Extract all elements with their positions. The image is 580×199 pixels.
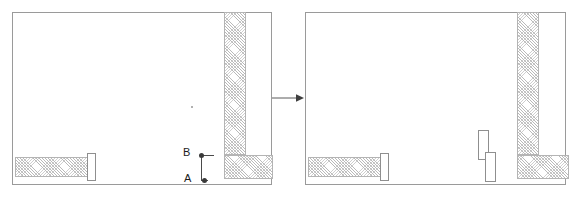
after-new-opening-lower bbox=[485, 152, 496, 182]
before-tiny-reference-dot bbox=[191, 106, 193, 108]
point-label-a: A bbox=[184, 173, 191, 184]
after-horizontal-wall-left bbox=[308, 157, 381, 177]
before-horizontal-wall-left bbox=[15, 157, 88, 177]
leader-line-vertical bbox=[201, 155, 202, 181]
figure-root: B A bbox=[0, 0, 580, 199]
arrow-head bbox=[296, 94, 304, 102]
before-horizontal-wall-right bbox=[224, 155, 273, 179]
before-state-floor-plan: B A bbox=[12, 12, 272, 185]
point-label-b: B bbox=[183, 147, 190, 158]
before-vertical-wall bbox=[224, 12, 246, 155]
transition-arrow bbox=[272, 92, 305, 104]
point-marker-a bbox=[202, 178, 207, 183]
after-state-floor-plan bbox=[305, 12, 566, 185]
before-panel-canvas: B A bbox=[13, 13, 271, 184]
before-door-opening-left bbox=[87, 153, 96, 181]
after-vertical-wall bbox=[517, 12, 539, 155]
after-door-opening-left bbox=[380, 153, 389, 181]
after-horizontal-wall-right bbox=[517, 155, 569, 179]
point-marker-b bbox=[199, 153, 204, 158]
after-panel-canvas bbox=[306, 13, 565, 184]
